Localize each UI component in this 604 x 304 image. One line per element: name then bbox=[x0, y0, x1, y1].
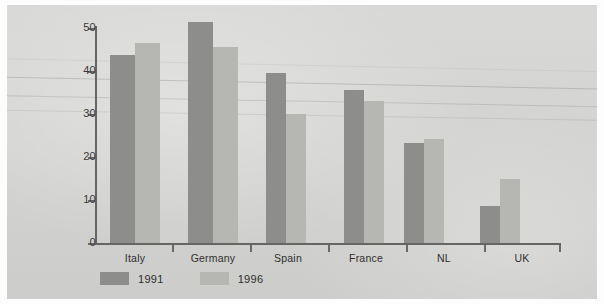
legend-label-1996: 1996 bbox=[238, 273, 264, 285]
bar-italy-1996 bbox=[135, 43, 160, 243]
plot-area: 50 40 30 20 10 0 bbox=[0, 0, 604, 304]
chart-legend: 1991 1996 bbox=[100, 272, 263, 285]
y-axis-tick-label: 20 bbox=[68, 150, 96, 162]
bar-uk-1991 bbox=[480, 206, 500, 243]
x-axis-category-label-italy: Italy bbox=[125, 252, 145, 264]
x-axis-category-label-uk: UK bbox=[515, 252, 530, 264]
bar-italy-1991 bbox=[110, 55, 135, 243]
bar-nl-1991 bbox=[404, 143, 424, 243]
legend-swatch-icon-1996 bbox=[200, 272, 229, 285]
bar-france-1996 bbox=[364, 101, 384, 243]
x-axis-tick bbox=[328, 245, 330, 252]
y-axis-line bbox=[95, 26, 97, 245]
chart-figure: 50 40 30 20 10 0 bbox=[0, 0, 604, 304]
bar-france-1991 bbox=[344, 90, 364, 243]
x-axis-tick bbox=[172, 245, 174, 252]
y-axis-tick-label: 40 bbox=[68, 64, 96, 76]
bar-uk-1996 bbox=[500, 179, 520, 244]
legend-item-1996: 1996 bbox=[200, 272, 264, 285]
x-axis-tick bbox=[406, 245, 408, 252]
bar-spain-1996 bbox=[286, 114, 306, 243]
y-axis-tick-label: 50 bbox=[68, 21, 96, 33]
x-axis-tick bbox=[250, 245, 252, 252]
legend-item-1991: 1991 bbox=[100, 272, 164, 285]
y-axis-tick-label: 10 bbox=[68, 193, 96, 205]
bar-spain-1991 bbox=[266, 73, 286, 243]
bar-germany-1991 bbox=[188, 22, 213, 243]
y-axis-tick-label: 30 bbox=[68, 107, 96, 119]
x-axis-category-label-nl: NL bbox=[437, 252, 451, 264]
x-axis-category-label-spain: Spain bbox=[274, 252, 302, 264]
x-axis-tick bbox=[559, 245, 561, 252]
legend-label-1991: 1991 bbox=[138, 273, 164, 285]
y-axis-tick-label: 0 bbox=[68, 236, 96, 248]
legend-swatch-icon-1991 bbox=[100, 272, 129, 285]
bar-nl-1996 bbox=[424, 139, 444, 243]
x-axis-category-label-france: France bbox=[349, 252, 383, 264]
x-axis-category-label-germany: Germany bbox=[191, 252, 236, 264]
bar-germany-1996 bbox=[213, 47, 238, 244]
x-axis-tick bbox=[484, 245, 486, 252]
